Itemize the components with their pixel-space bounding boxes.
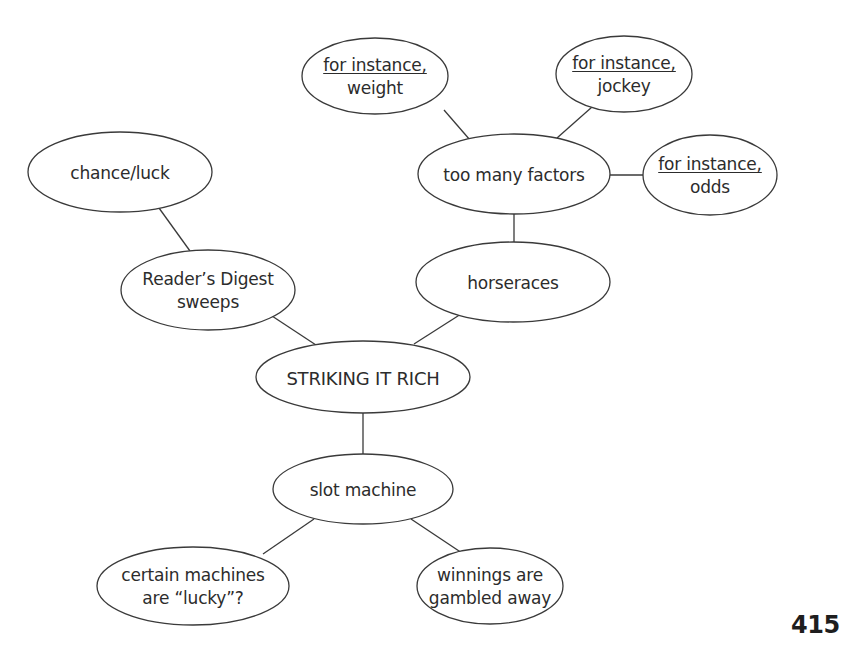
node-label-weight: for instance,weight (323, 54, 427, 100)
node-label-lucky: certain machinesare “lucky”? (121, 564, 265, 610)
node-text-line: odds (690, 177, 730, 197)
concept-ellipses (28, 36, 777, 625)
node-text-line: certain machines (121, 565, 265, 585)
node-text-line: jockey (597, 76, 650, 96)
node-text-line: weight (347, 78, 403, 98)
node-text-line: are “lucky”? (142, 588, 243, 608)
node-label-winnings: winnings aregambled away (429, 564, 551, 610)
node-text-line: chance/luck (70, 163, 169, 183)
node-text-line: gambled away (429, 588, 551, 608)
node-label-factors: too many factors (443, 164, 585, 187)
node-text-line: sweeps (177, 292, 239, 312)
node-label-chance: chance/luck (70, 162, 169, 185)
edge-factors-jockey (557, 107, 592, 138)
node-text-line: horseraces (467, 273, 559, 293)
node-text-line: winnings are (437, 565, 543, 585)
node-label-jockey: for instance,jockey (572, 52, 676, 98)
edge-factors-weight (444, 110, 470, 140)
node-text-line: STRIKING IT RICH (286, 368, 439, 389)
node-text-line: slot machine (310, 480, 417, 500)
edge-readers-chance (159, 208, 190, 251)
node-label-horseraces: horseraces (467, 272, 559, 295)
edge-slot-winnings (411, 519, 462, 553)
page-number: 415 (791, 611, 840, 639)
node-label-slot: slot machine (310, 479, 417, 502)
node-text-line: for instance, (658, 154, 762, 174)
node-text-line: for instance, (323, 55, 427, 75)
edge-striking-horseraces (414, 314, 461, 344)
node-label-odds: for instance,odds (658, 153, 762, 199)
node-text-line: for instance, (572, 53, 676, 73)
concept-web-diagram (0, 0, 865, 652)
edge-striking-readers (272, 316, 316, 345)
node-label-readers: Reader’s Digestsweeps (142, 268, 273, 314)
edge-slot-lucky (263, 519, 314, 554)
node-text-line: too many factors (443, 165, 585, 185)
node-text-line: Reader’s Digest (142, 269, 273, 289)
node-label-striking: STRIKING IT RICH (286, 367, 439, 390)
